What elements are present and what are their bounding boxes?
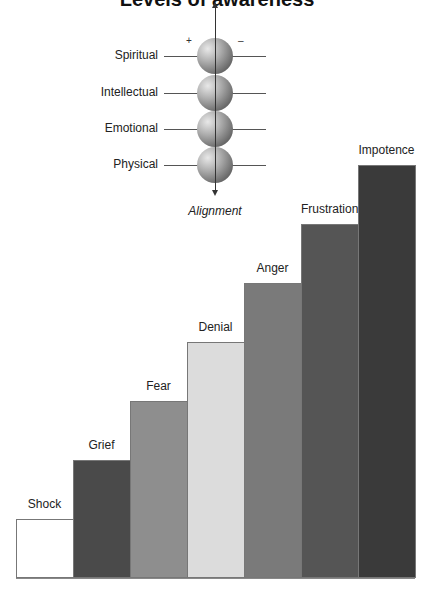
bar-shock	[16, 519, 74, 578]
plus-sign: +	[186, 35, 192, 46]
bar-frustration	[301, 224, 359, 578]
bar-label-fear: Fear	[130, 379, 187, 393]
alignment-label: Alignment	[160, 204, 270, 218]
bar-label-anger: Anger	[244, 261, 301, 275]
bar-anger	[244, 283, 302, 578]
minus-sign: –	[238, 35, 244, 46]
bar-grief	[73, 460, 131, 578]
bar-label-grief: Grief	[73, 438, 130, 452]
alignment-axis	[215, 6, 216, 190]
bar-label-denial: Denial	[187, 320, 244, 334]
bar-label-frustration: Frustration	[301, 202, 358, 216]
level-label-physical: Physical	[68, 157, 158, 171]
level-label-intellectual: Intellectual	[68, 85, 158, 99]
bar-label-impotence: Impotence	[358, 143, 415, 157]
bar-impotence	[358, 165, 416, 578]
level-label-emotional: Emotional	[68, 121, 158, 135]
bar-denial	[187, 342, 245, 578]
bar-fear	[130, 401, 188, 578]
level-label-spiritual: Spiritual	[68, 48, 158, 62]
bar-label-shock: Shock	[16, 497, 73, 511]
arrow-down-icon	[212, 190, 218, 196]
chart-baseline	[16, 578, 415, 579]
